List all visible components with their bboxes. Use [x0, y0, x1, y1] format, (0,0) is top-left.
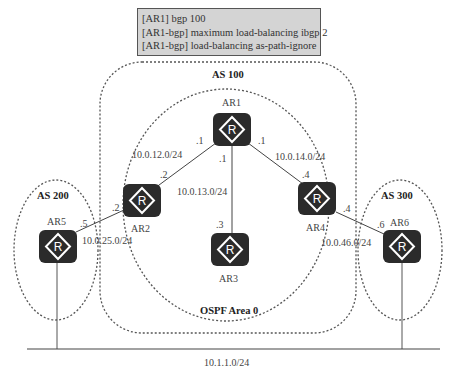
- as100-label: AS 100: [212, 70, 244, 81]
- net-ar2-ar5: 10.0.25.0/24: [82, 236, 132, 246]
- ar3-label: AR3: [219, 274, 238, 284]
- command-line-2: [AR1-bgp] maximum load-balancing ibgp 2: [142, 26, 320, 40]
- router-ar6[interactable]: R: [383, 230, 421, 263]
- link-ar1-ar4: [244, 140, 303, 184]
- if-ar5-ar2: .5: [80, 219, 88, 229]
- command-line-1: [AR1] bgp 100: [142, 12, 320, 26]
- router-ar5[interactable]: R: [39, 230, 77, 263]
- router-ar2[interactable]: R: [123, 184, 161, 217]
- router-icon: R: [123, 184, 161, 217]
- if-ar2-ar1: .2: [160, 170, 168, 180]
- router-icon: R: [383, 230, 421, 263]
- if-ar1-ar3: .1: [219, 154, 227, 164]
- router-icon: R: [298, 182, 336, 215]
- router-icon: R: [39, 230, 77, 263]
- net-lan: 10.1.1.0/24: [204, 358, 249, 368]
- if-ar6-ar4: .6: [377, 220, 385, 230]
- router-icon: R: [211, 233, 249, 266]
- svg-text:R: R: [226, 243, 235, 257]
- svg-text:R: R: [228, 123, 237, 137]
- command-box: [AR1] bgp 100 [AR1-bgp] maximum load-bal…: [137, 8, 321, 56]
- net-ar1-ar3: 10.0.13.0/24: [177, 187, 227, 197]
- if-ar3-ar1: .3: [216, 220, 224, 230]
- router-ar1[interactable]: R: [213, 113, 251, 146]
- ar6-label: AR6: [390, 218, 409, 228]
- if-ar4-ar1: .4: [302, 170, 310, 180]
- router-ar3[interactable]: R: [211, 233, 249, 266]
- svg-text:R: R: [398, 240, 407, 254]
- ar4-label: AR4: [306, 223, 325, 233]
- as200-label: AS 200: [37, 191, 69, 202]
- router-ar4[interactable]: R: [298, 182, 336, 215]
- ar5-label: AR5: [47, 217, 66, 227]
- net-ar1-ar4: 10.0.14.0/24: [275, 152, 325, 162]
- link-ar1-ar2: [155, 140, 220, 188]
- ar2-label: AR2: [131, 224, 150, 234]
- if-ar1-ar4: .1: [258, 136, 266, 146]
- net-ar1-ar2: 10.0.12.0/24: [132, 150, 182, 160]
- if-ar4-ar6: .4: [343, 204, 351, 214]
- command-line-3: [AR1-bgp] load-balancing as-path-ignore: [142, 39, 320, 53]
- ar1-label: AR1: [222, 98, 241, 108]
- if-ar2-ar5: .2: [112, 203, 120, 213]
- net-ar4-ar6: 10.0.46.0/24: [321, 238, 371, 248]
- svg-text:R: R: [54, 240, 63, 254]
- svg-text:R: R: [313, 192, 322, 206]
- ospf-area-label: OSPF Area 0: [200, 306, 258, 317]
- as300-label: AS 300: [381, 191, 413, 202]
- svg-text:R: R: [138, 194, 147, 208]
- router-icon: R: [213, 113, 251, 146]
- if-ar1-ar2: .1: [196, 136, 204, 146]
